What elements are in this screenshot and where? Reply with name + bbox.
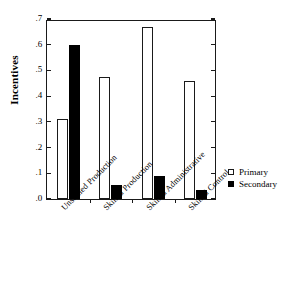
- y-axis-tick-label: .5: [36, 63, 46, 75]
- y-axis-tick-mark-left: [47, 18, 51, 19]
- x-axis-tick-mark: [90, 199, 91, 203]
- y-axis-tick-label: .7: [36, 12, 46, 24]
- bar-secondary: [69, 45, 80, 199]
- bar-chart-figure: Incentives .0.1.2.3.4.5.6.7 Unskilled Pr…: [0, 0, 301, 282]
- bar-primary: [184, 81, 195, 199]
- legend-item-secondary: Secondary: [228, 178, 277, 190]
- x-axis-tick-mark: [175, 199, 176, 203]
- plot-area: .0.1.2.3.4.5.6.7: [46, 20, 216, 200]
- y-axis-tick-label: .3: [36, 115, 46, 127]
- legend-item-primary: Primary: [228, 166, 277, 178]
- bar-group: [47, 21, 90, 199]
- y-axis-title: Incentives: [8, 40, 20, 120]
- legend: Primary Secondary: [228, 166, 277, 190]
- x-axis-tick-mark: [132, 199, 133, 203]
- y-axis-tick-label: .4: [36, 89, 46, 101]
- filled-square-icon: [228, 181, 234, 187]
- bar-primary: [57, 119, 68, 199]
- bar-primary: [99, 77, 110, 199]
- open-square-icon: [228, 169, 234, 175]
- y-axis-tick-label: .1: [36, 166, 46, 178]
- y-axis-tick-label: .0: [36, 192, 46, 204]
- y-axis-tick-label: .6: [36, 38, 46, 50]
- legend-label-secondary: Secondary: [239, 178, 277, 190]
- y-axis-tick-mark-right: [211, 18, 215, 19]
- legend-label-primary: Primary: [239, 166, 268, 178]
- y-axis-tick-label: .2: [36, 141, 46, 153]
